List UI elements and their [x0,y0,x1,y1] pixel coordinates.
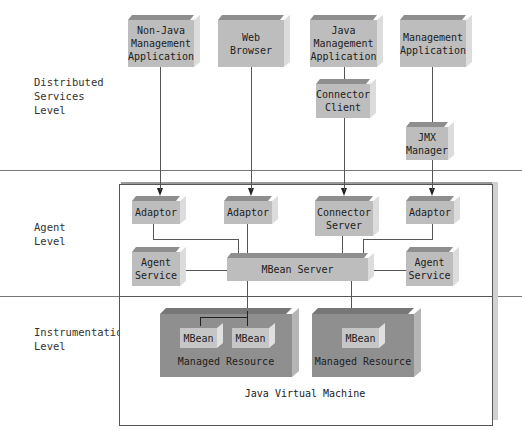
managed-resource-2: MBean Managed Resource [312,314,414,377]
line-nonjava-adaptor [160,67,161,180]
managed-resource-1: MBean MBean Managed Resource [160,314,292,377]
connector-line [200,317,201,326]
managed-resource-label: Managed Resource [160,356,292,367]
arrow-shaft [160,170,161,190]
connector-server: Connector Server [315,201,373,236]
non-java-management-application: Non-Java Management Application [128,20,194,67]
java-management-application: Java Management Application [310,20,377,67]
adaptor-2: Adaptor [224,201,272,224]
level-separator-top [0,170,522,171]
management-application: Management Application [400,20,466,67]
connector-line [153,224,154,239]
managed-resource-label: Managed Resource [312,356,414,367]
arrow-shaft [251,170,252,190]
arrow-shaft [344,170,345,190]
web-browser: Web Browser [218,20,284,67]
connector-line [182,270,228,271]
connector-line [247,224,248,257]
connector-line [374,270,406,271]
mbean-server: MBean Server [227,258,368,281]
agent-service-right: Agent Service [406,252,453,286]
connector-line [432,224,433,239]
level-label-agent: Agent Level [34,220,66,248]
arrow-shaft [432,170,433,190]
connector-line [247,311,248,326]
level-separator-inner [119,296,493,297]
connector-line [200,317,247,318]
connector-client: Connector Client [316,84,370,118]
line-javaapp-client [344,67,345,81]
line-browser-adaptor [251,67,252,180]
line-mgmtapp-jmx [432,67,433,124]
level-label-instrumentation: Instrumentation Level [34,325,129,353]
jvm-label: Java Virtual Machine [119,388,491,399]
connector-line [363,239,433,240]
connector-line [153,239,239,240]
mbean-2: MBean [232,328,269,348]
mbean-1: MBean [180,328,217,348]
jmx-manager: JMX Manager [406,127,448,160]
mbean-3: MBean [342,328,379,348]
agent-service-left: Agent Service [132,252,180,286]
adaptor-3: Adaptor [406,201,454,224]
level-label-distributed: Distributed Services Level [34,75,104,117]
adaptor-1: Adaptor [132,201,180,224]
